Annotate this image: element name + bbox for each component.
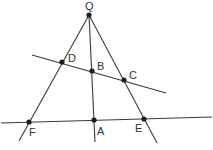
point-D bbox=[59, 59, 64, 64]
label-F: F bbox=[29, 126, 36, 138]
label-A: A bbox=[97, 125, 105, 137]
label-D: D bbox=[68, 52, 76, 64]
point-E bbox=[141, 116, 146, 121]
label-E: E bbox=[135, 122, 142, 134]
line-FE bbox=[1, 117, 212, 123]
point-F bbox=[26, 119, 31, 124]
label-Q: Q bbox=[85, 0, 94, 12]
point-Q bbox=[86, 12, 91, 17]
diagram-lines bbox=[1, 15, 212, 143]
point-C bbox=[121, 77, 126, 82]
line-QA bbox=[89, 15, 95, 142]
label-B: B bbox=[97, 60, 104, 72]
point-B bbox=[89, 68, 94, 73]
point-A bbox=[91, 117, 96, 122]
label-C: C bbox=[129, 69, 137, 81]
geometry-diagram: Q D B C F A E bbox=[0, 0, 213, 150]
